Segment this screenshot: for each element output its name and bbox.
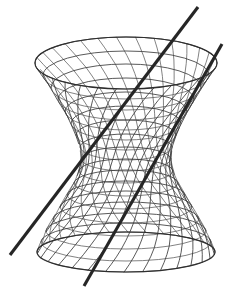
hyperboloid-wireframe-canvas: [0, 0, 225, 287]
figure-background: [0, 0, 225, 287]
hyperboloid-figure: Hyperboloid of one sheet ruled surface w…: [0, 0, 225, 287]
